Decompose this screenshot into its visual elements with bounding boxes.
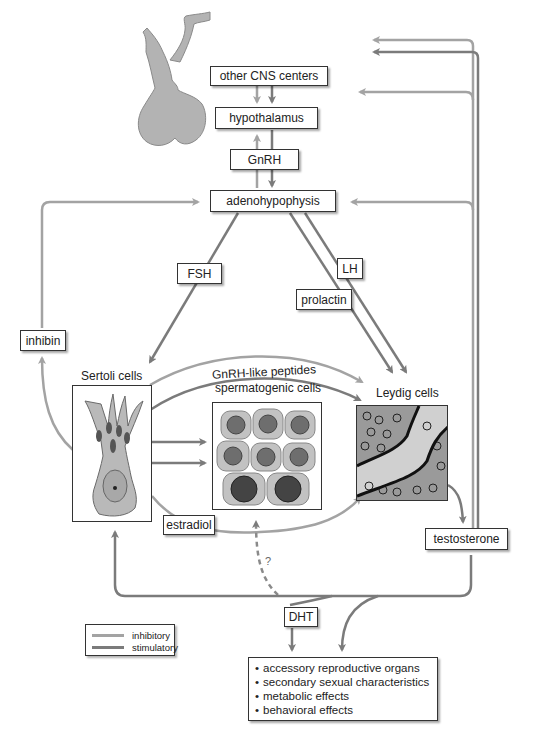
effect-item: secondary sexual characteristics xyxy=(255,675,431,689)
label-spermatogenic-cells: spermatogenic cells xyxy=(215,381,321,395)
node-estradiol: estradiol xyxy=(163,515,215,535)
effect-item: metabolic effects xyxy=(255,689,431,703)
legend: inhibitory stimulatory xyxy=(85,624,175,656)
node-testosterone: testosterone xyxy=(425,528,508,550)
node-inhibin: inhibin xyxy=(20,330,66,351)
node-hypothalamus: hypothalamus xyxy=(215,107,318,129)
legend-label: stimulatory xyxy=(132,642,178,653)
spermatogenic-cell-illustration xyxy=(212,402,322,510)
effect-item: accessory reproductive organs xyxy=(255,661,431,675)
effect-item: behavioral effects xyxy=(255,703,431,717)
stimulatory-swatch-icon xyxy=(92,646,124,649)
node-gnrh: GnRH xyxy=(230,149,299,170)
node-dht: DHT xyxy=(284,607,318,627)
effects-list-box: accessory reproductive organs secondary … xyxy=(248,657,438,721)
legend-label: inhibitory xyxy=(132,630,170,641)
sertoli-cell-illustration xyxy=(72,385,152,522)
label-sertoli-cells: Sertoli cells xyxy=(81,369,142,383)
node-lh: LH xyxy=(337,258,363,279)
legend-item-inhibitory: inhibitory xyxy=(92,630,170,641)
pituitary-gland-icon xyxy=(138,12,210,145)
inhibitory-swatch-icon xyxy=(92,634,124,637)
node-prolactin: prolactin xyxy=(296,289,352,310)
legend-item-stimulatory: stimulatory xyxy=(92,642,178,653)
leydig-cell-illustration xyxy=(356,405,448,501)
node-adenohypophysis: adenohypophysis xyxy=(210,190,336,212)
label-leydig-cells: Leydig cells xyxy=(376,386,439,400)
node-fsh: FSH xyxy=(177,263,222,284)
node-other-cns-centers: other CNS centers xyxy=(210,66,328,86)
label-unknown: ? xyxy=(265,555,271,567)
